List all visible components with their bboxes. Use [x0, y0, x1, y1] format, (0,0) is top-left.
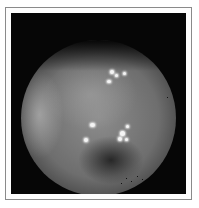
glint: [120, 131, 125, 136]
glint: [118, 137, 122, 141]
glint: [123, 72, 126, 75]
top-shadow: [21, 40, 176, 71]
speck: [167, 97, 168, 98]
speck: [131, 181, 132, 182]
glint: [125, 138, 128, 141]
glint: [90, 123, 95, 127]
speck: [137, 176, 138, 177]
speck: [126, 178, 127, 179]
glint: [126, 125, 129, 128]
endoscopy-image: [11, 13, 186, 194]
glint: [84, 138, 88, 142]
glint: [107, 80, 111, 83]
glint: [115, 74, 118, 77]
glint: [110, 70, 114, 74]
speck: [142, 179, 143, 180]
speck: [121, 183, 122, 184]
endoscope-field-of-view: [21, 40, 176, 194]
